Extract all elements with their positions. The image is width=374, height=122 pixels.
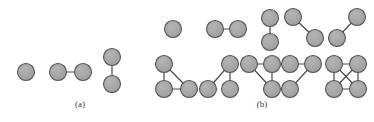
graph-vertex <box>264 56 281 73</box>
graph-vertex <box>282 81 299 98</box>
graph-vertex <box>75 64 92 81</box>
graph-vertex <box>329 30 346 47</box>
graph-vertex <box>200 81 217 98</box>
graph-vertex <box>222 56 239 73</box>
graph-vertex <box>181 81 198 98</box>
graph-vertex <box>305 56 322 73</box>
graph-vertex <box>282 56 299 73</box>
graph-vertex <box>241 56 258 73</box>
graph-vertex <box>230 21 247 38</box>
graph-vertex <box>104 76 121 93</box>
graph-vertex <box>262 10 279 27</box>
panel-a-caption: (a) <box>0 99 160 109</box>
graph-vertex <box>104 49 121 66</box>
graph-vertex <box>264 81 281 98</box>
graph-vertex <box>350 56 367 73</box>
graph-vertex <box>207 21 224 38</box>
nodes-layer <box>18 9 367 98</box>
figure-container: (a) (b) <box>0 0 374 122</box>
graph-vertex <box>285 9 302 26</box>
graph-vertex <box>156 81 173 98</box>
graph-vertex <box>165 21 182 38</box>
graph-vertex <box>50 64 67 81</box>
graph-vertex <box>222 81 239 98</box>
graph-vertex <box>262 34 279 51</box>
graph-vertex <box>18 64 35 81</box>
graph-vertex <box>326 56 343 73</box>
graph-vertex <box>349 9 366 26</box>
panel-b-caption: (b) <box>150 99 374 109</box>
graph-vertex <box>350 81 367 98</box>
graph-vertex <box>307 30 324 47</box>
graph-vertex <box>326 81 343 98</box>
graph-vertex <box>156 56 173 73</box>
